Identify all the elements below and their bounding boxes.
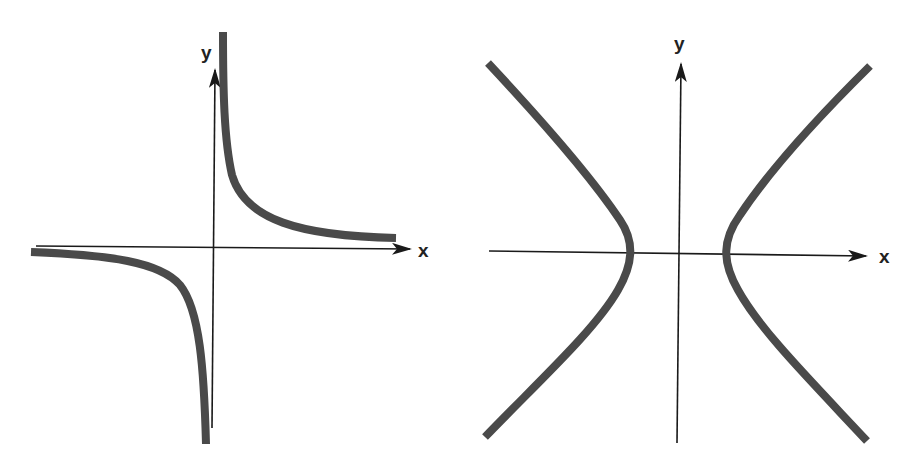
hyperbola-diagrams: y x y x xyxy=(0,0,916,474)
left-y-axis xyxy=(212,70,215,428)
left-y-axis-label: y xyxy=(201,42,212,63)
left-curve-upper-branch xyxy=(223,32,396,238)
left-x-axis-label: x xyxy=(418,240,429,261)
right-y-axis-label: y xyxy=(674,33,685,54)
left-curve-lower-branch xyxy=(31,252,206,444)
right-figure: y x xyxy=(485,33,890,443)
right-curve-right-branch xyxy=(726,66,870,441)
right-x-axis-label: x xyxy=(879,246,890,267)
right-x-axis xyxy=(489,251,866,256)
right-curve-left-branch xyxy=(485,63,630,437)
left-figure: y x xyxy=(31,32,429,444)
left-x-axis xyxy=(36,246,410,249)
